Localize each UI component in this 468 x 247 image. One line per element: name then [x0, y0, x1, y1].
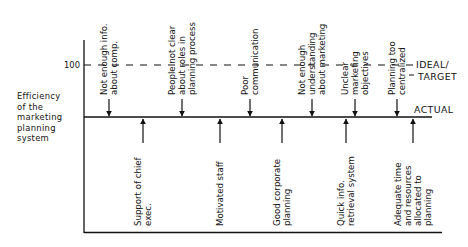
- restraining-force-label-line: marketing: [350, 51, 360, 95]
- driving-force-label-line: Support of chief: [133, 156, 143, 226]
- restraining-forces: Not enough info.about comp.People not cl…: [99, 21, 407, 116]
- ideal-value-tick: 100: [64, 60, 80, 70]
- restraining-force-label-line: about roles in: [177, 36, 187, 95]
- driving-force-label-line: Good corporate: [272, 159, 282, 226]
- driving-force-label-line: Quick info.: [336, 180, 346, 226]
- ideal-label-line: IDEAL/: [416, 59, 450, 70]
- restraining-force-label-line: Not enough info.: [99, 23, 109, 95]
- driving-force-label-line: Adequate time: [393, 163, 403, 226]
- driving-force: Good corporateplanning: [272, 119, 292, 226]
- restraining-force: Unclearmarketingobjectives: [340, 51, 370, 116]
- ideal-label-line: TARGET: [417, 71, 457, 82]
- restraining-force-label-line: People not clear: [167, 25, 177, 95]
- driving-forces: Support of chiefexec.Motivated staffGood…: [133, 119, 433, 226]
- force-field-diagram: Efficiency of the marketing planning sys…: [0, 0, 468, 247]
- driving-force-label-line: planning: [282, 189, 292, 226]
- restraining-force-label-line: Unclear: [340, 62, 350, 95]
- restraining-force: Not enough info.about comp.: [99, 23, 119, 116]
- restraining-force-label-line: objectives: [360, 51, 370, 95]
- actual-label: ACTUAL: [414, 104, 454, 115]
- restraining-force-label-line: communication: [250, 29, 260, 95]
- y-axis-label-line: planning: [17, 123, 56, 133]
- y-axis-label-line: system: [17, 133, 49, 143]
- driving-force: Motivated staff: [215, 119, 225, 226]
- restraining-force: Not enoughunderstandingabout marketing: [297, 24, 327, 116]
- driving-force: Adequate timeand resourcesallocated topl…: [393, 119, 434, 226]
- restraining-force-label-line: about comp.: [109, 41, 119, 95]
- restraining-force: People not clearabout roles inplanning p…: [167, 21, 197, 116]
- restraining-force-label-line: Not enough: [297, 45, 307, 95]
- driving-force-label-line: and resources: [403, 165, 413, 226]
- driving-force: Support of chiefexec.: [133, 119, 153, 226]
- y-axis-label-line: of the: [17, 102, 43, 112]
- restraining-force-label-line: understanding: [307, 33, 317, 95]
- driving-force-label-line: exec.: [143, 203, 153, 226]
- restraining-force: Planning toocentralized: [387, 41, 407, 116]
- driving-force-label-line: planning: [423, 189, 433, 226]
- restraining-force: Poorcommunication: [240, 29, 260, 116]
- restraining-force-label-line: Poor: [240, 76, 250, 95]
- driving-force-label-line: retrieval system: [346, 156, 356, 226]
- ideal-target-label: IDEAL/ TARGET: [416, 59, 457, 82]
- driving-force: Quick info.retrieval system: [336, 119, 356, 226]
- restraining-force-label-line: about marketing: [317, 24, 327, 95]
- y-axis-label: Efficiency of the marketing planning sys…: [17, 91, 65, 143]
- restraining-force-label-line: planning process: [187, 21, 197, 95]
- restraining-force-label-line: Planning too: [387, 41, 397, 95]
- driving-force-label-line: allocated to: [413, 175, 423, 226]
- driving-force-label-line: Motivated staff: [215, 160, 225, 226]
- restraining-force-label-line: centralized: [397, 47, 407, 95]
- y-axis-label-line: marketing: [17, 112, 62, 122]
- y-axis-label-line: Efficiency: [17, 91, 60, 101]
